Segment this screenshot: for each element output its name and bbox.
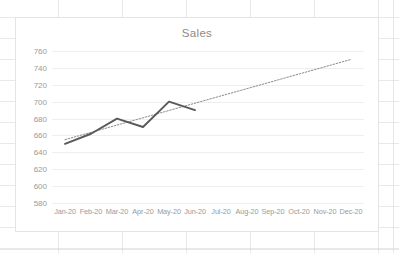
x-axis-tick-labels: Jan-20Feb-20Mar-20Apr-20May-20Jun-20Jul-… bbox=[52, 207, 364, 221]
sales-data-line bbox=[65, 102, 195, 144]
x-axis-tick-label: Jul-20 bbox=[208, 207, 234, 221]
sales-chart-object[interactable]: Sales 760740720700680660640620600580 Jan… bbox=[15, 17, 379, 232]
y-axis-tick-label: 720 bbox=[34, 80, 47, 89]
y-axis-tick-label: 620 bbox=[34, 165, 47, 174]
y-axis-tick-label: 640 bbox=[34, 148, 47, 157]
y-axis-tick-label: 580 bbox=[34, 199, 47, 208]
y-axis-tick-label: 760 bbox=[34, 47, 47, 56]
x-axis-tick-label: Nov-20 bbox=[312, 207, 338, 221]
y-axis-tick-label: 660 bbox=[34, 131, 47, 140]
chart-title: Sales bbox=[16, 27, 378, 39]
y-axis-tick-label: 600 bbox=[34, 182, 47, 191]
gridline bbox=[52, 203, 364, 204]
plot-area[interactable]: 760740720700680660640620600580 bbox=[52, 51, 364, 203]
y-axis-tick-label: 740 bbox=[34, 63, 47, 72]
series-lines bbox=[52, 51, 364, 203]
x-axis-tick-label: Jan-20 bbox=[52, 207, 78, 221]
x-axis-tick-label: Dec-20 bbox=[338, 207, 364, 221]
x-axis-tick-label: May-20 bbox=[156, 207, 182, 221]
x-axis-tick-label: Feb-20 bbox=[78, 207, 104, 221]
x-axis-tick-label: Aug-20 bbox=[234, 207, 260, 221]
x-axis-tick-label: Sep-20 bbox=[260, 207, 286, 221]
x-axis-tick-label: Jun-20 bbox=[182, 207, 208, 221]
y-axis-tick-label: 700 bbox=[34, 97, 47, 106]
y-axis-tick-label: 680 bbox=[34, 114, 47, 123]
x-axis-tick-label: Mar-20 bbox=[104, 207, 130, 221]
trendline-linear-sales bbox=[65, 59, 351, 139]
x-axis-tick-label: Apr-20 bbox=[130, 207, 156, 221]
x-axis-tick-label: Oct-20 bbox=[286, 207, 312, 221]
